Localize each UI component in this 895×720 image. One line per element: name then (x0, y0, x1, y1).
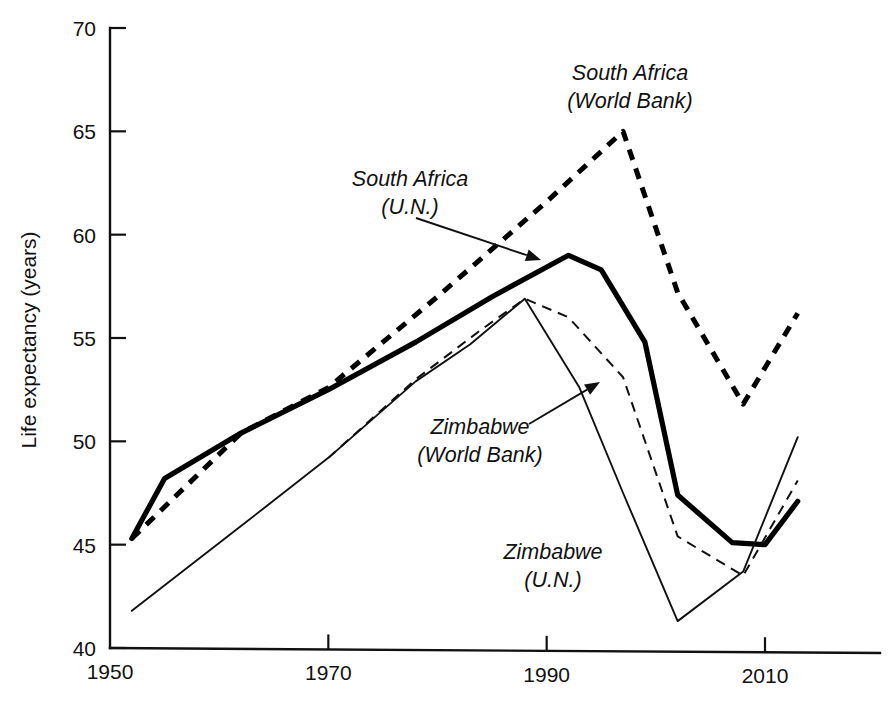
y-tick-label: 45 (73, 534, 96, 557)
y-tick-label: 40 (73, 637, 96, 660)
annotation-label-line2: (World Bank) (567, 89, 692, 113)
x-tick-label: 1970 (305, 661, 352, 684)
chart-canvas: Life expectancy (years) 40455055606570 1… (0, 0, 895, 720)
annotation-label-line1: Zimbabwe (502, 540, 602, 564)
annotation-label-line1: South Africa (352, 167, 468, 191)
x-tick-label: 1950 (87, 660, 134, 683)
annotation-label-line2: (U.N.) (381, 195, 438, 219)
life-expectancy-chart: Life expectancy (years) 40455055606570 1… (0, 0, 895, 720)
y-tick-label: 70 (73, 17, 96, 40)
y-tick-label: 55 (73, 327, 96, 350)
annotation-label-line2: (U.N.) (524, 568, 581, 592)
annotation-label-line2: (World Bank) (417, 443, 542, 467)
x-tick-label: 2010 (742, 664, 789, 687)
y-axis-title: Life expectancy (years) (17, 231, 40, 448)
y-tick-label: 50 (73, 430, 96, 453)
y-tick-label: 65 (73, 120, 96, 143)
annotation-label-line1: Zimbabwe (429, 415, 529, 439)
annotation-label-line1: South Africa (572, 61, 688, 85)
x-tick-label: 1990 (523, 663, 570, 686)
y-tick-label: 60 (73, 224, 96, 247)
